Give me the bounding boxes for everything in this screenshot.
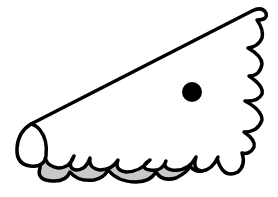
oval-tip xyxy=(17,124,46,166)
wedge-figure-drawing xyxy=(0,0,278,197)
wedge-body-outline xyxy=(31,9,266,174)
eye-dot-icon xyxy=(182,82,202,102)
illustration-canvas: Line drawing of a wedge-shaped figure wi… xyxy=(0,0,278,197)
